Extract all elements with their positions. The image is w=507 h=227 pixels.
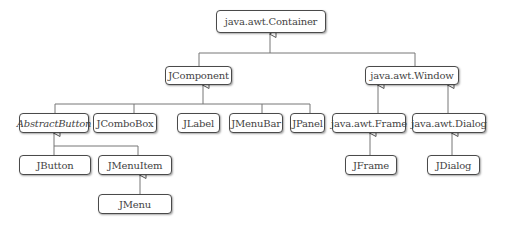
node-jlabel: JLabel bbox=[177, 113, 220, 133]
node-jcombobox: JComboBox bbox=[93, 113, 157, 133]
node-jmenuitem: JMenuItem bbox=[98, 155, 172, 175]
node-abstractbutton: AbstractButton bbox=[19, 113, 89, 133]
node-jcomponent: JComponent bbox=[165, 66, 232, 85]
node-jbutton: JButton bbox=[19, 155, 91, 175]
node-java-awt-container: java.awt.Container bbox=[216, 10, 326, 33]
node-java-awt-window: java.awt.Window bbox=[365, 66, 459, 85]
node-jmenu: JMenu bbox=[98, 194, 172, 214]
node-java-awt-frame: java.awt.Frame bbox=[332, 113, 406, 133]
node-jdialog: JDialog bbox=[427, 155, 480, 175]
node-jmenubar: JMenuBar bbox=[229, 113, 283, 133]
node-jpanel: JPanel bbox=[290, 113, 325, 133]
node-java-awt-dialog: java.awt.Dialog bbox=[412, 113, 486, 133]
node-jframe: JFrame bbox=[345, 155, 397, 175]
